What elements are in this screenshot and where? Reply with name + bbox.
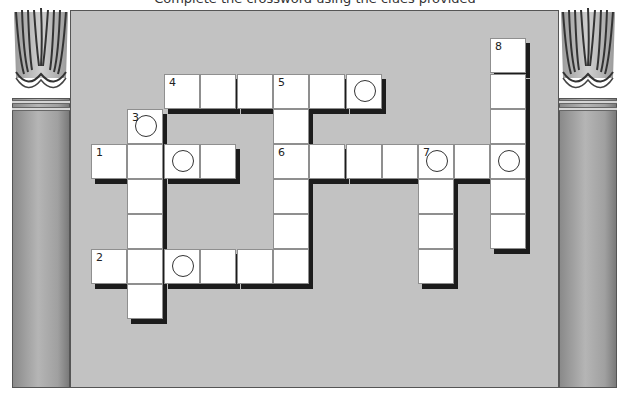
crossword-cell[interactable]: [273, 249, 309, 284]
crossword-cell[interactable]: [200, 74, 236, 109]
crossword-cell[interactable]: [273, 179, 309, 214]
crossword-cell[interactable]: [237, 249, 273, 284]
puzzle-title: Complete the crossword using the clues p…: [150, 0, 480, 6]
crossword-cell[interactable]: [418, 249, 454, 284]
pillar-band: [12, 107, 70, 111]
crossword-cell[interactable]: [454, 144, 490, 179]
crossword-cell[interactable]: [309, 74, 345, 109]
clue-number: 6: [278, 147, 285, 159]
crossword-cell[interactable]: [490, 214, 526, 249]
crossword-cell[interactable]: [127, 144, 163, 179]
clue-number: 2: [96, 252, 103, 264]
crossword-cell[interactable]: [164, 144, 200, 179]
right-pillar: [559, 0, 617, 388]
pillar-band: [559, 100, 617, 104]
crossword-cell[interactable]: [273, 214, 309, 249]
crossword-cell-clue-6[interactable]: 6: [273, 144, 309, 179]
highlight-circle-icon: [498, 150, 520, 172]
clue-number: 8: [495, 41, 502, 53]
crossword-cell-clue-2[interactable]: 2: [91, 249, 127, 284]
pillar-shaft: [559, 98, 617, 388]
highlight-circle-icon: [172, 255, 194, 277]
crossword-cell[interactable]: [418, 214, 454, 249]
crossword-cell-clue-1[interactable]: 1: [91, 144, 127, 179]
clue-number: 4: [169, 77, 176, 89]
pillar-capital-icon: [559, 0, 617, 100]
crossword-cell[interactable]: [490, 179, 526, 214]
crossword-cell-clue-3[interactable]: 3: [127, 109, 163, 144]
clue-number: 3: [132, 112, 139, 124]
crossword-cell[interactable]: [382, 144, 418, 179]
crossword-cell[interactable]: [490, 144, 526, 179]
pillar-band: [12, 100, 70, 104]
crossword-cell[interactable]: [309, 144, 345, 179]
crossword-cell[interactable]: [237, 74, 273, 109]
clue-number: 1: [96, 147, 103, 159]
crossword-cell[interactable]: [273, 109, 309, 144]
left-pillar: [12, 0, 70, 388]
crossword-cell[interactable]: [346, 144, 382, 179]
crossword-cell[interactable]: [127, 249, 163, 284]
crossword-cell[interactable]: [164, 249, 200, 284]
crossword-cell[interactable]: [200, 144, 236, 179]
crossword-cell-clue-5[interactable]: 5: [273, 74, 309, 109]
crossword-cell[interactable]: [127, 179, 163, 214]
crossword-cell[interactable]: [418, 179, 454, 214]
crossword-cell-clue-4[interactable]: 4: [164, 74, 200, 109]
highlight-circle-icon: [354, 80, 376, 102]
crossword-cell-clue-7[interactable]: 7: [418, 144, 454, 179]
pillar-band: [559, 107, 617, 111]
clue-number: 5: [278, 77, 285, 89]
pillar-shaft: [12, 98, 70, 388]
crossword-cell[interactable]: [346, 74, 382, 109]
crossword-cell[interactable]: [490, 74, 526, 109]
crossword-cell[interactable]: [127, 214, 163, 249]
crossword-cell[interactable]: [127, 284, 163, 319]
crossword-cell[interactable]: [490, 109, 526, 144]
clue-number: 7: [423, 147, 430, 159]
crossword-cell-clue-8[interactable]: 8: [490, 38, 526, 73]
highlight-circle-icon: [172, 150, 194, 172]
crossword-cell[interactable]: [200, 249, 236, 284]
pillar-capital-icon: [12, 0, 70, 100]
